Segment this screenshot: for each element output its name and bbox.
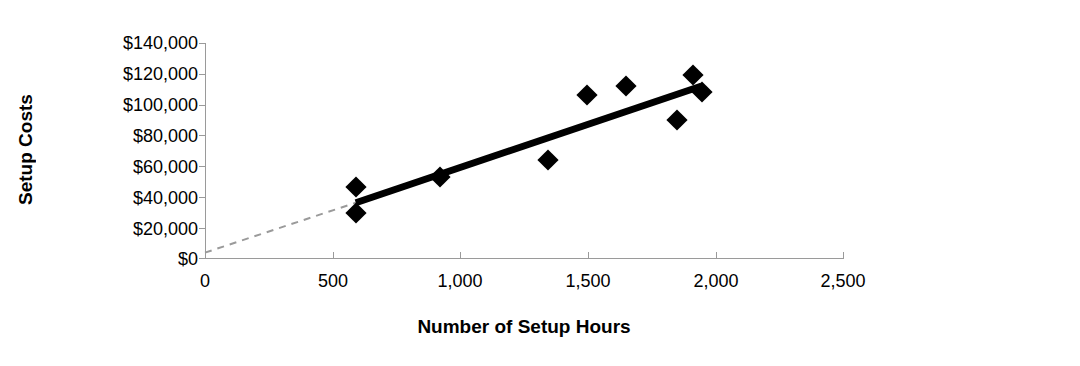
plot-lines-layer: [0, 0, 1080, 366]
extrapolated-intercept-line: [205, 203, 356, 253]
scatter-chart: Setup Costs $140,000 $120,000 $100,000 $…: [0, 0, 1080, 366]
regression-line: [356, 86, 702, 203]
